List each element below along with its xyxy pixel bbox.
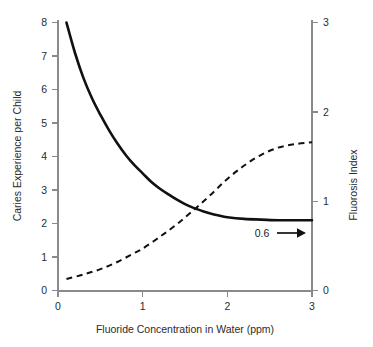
x-axis-tick-labels: 0 1 2 3: [55, 300, 315, 312]
y-right-tick-label: 2: [323, 106, 329, 118]
y-right-tick-label: 3: [323, 16, 329, 28]
y-axis-right-title: Fluorosis Index: [347, 149, 359, 221]
x-tick-label: 0: [55, 300, 61, 312]
y-left-tick-label: 3: [41, 184, 47, 196]
y-left-tick-label: 1: [41, 251, 47, 263]
y-axis-right-tick-labels: 0 1 2 3: [323, 16, 329, 296]
x-axis-title: Fluoride Concentration in Water (ppm): [96, 323, 274, 335]
y-left-tick-label: 4: [41, 150, 47, 162]
chart-container: 0 1 2 3 4 5 6 7 8 0 1 2 3: [0, 0, 373, 347]
y-axis-right-ticks: [312, 23, 318, 291]
y-left-tick-label: 5: [41, 117, 47, 129]
x-tick-label: 3: [309, 300, 315, 312]
y-axis-left-ticks: [52, 23, 58, 291]
y-right-tick-label: 1: [323, 195, 329, 207]
x-axis-ticks: [58, 291, 312, 297]
y-left-tick-label: 2: [41, 217, 47, 229]
y-axis-left-title: Caries Experience per Child: [11, 90, 23, 221]
chart-plot-area: 0 1 2 3 4 5 6 7 8 0 1 2 3: [0, 0, 373, 347]
series-caries-experience-line: [66, 23, 312, 221]
x-tick-label: 2: [224, 300, 230, 312]
annotation-arrow-head-icon: [297, 228, 306, 238]
y-left-tick-label: 0: [41, 284, 47, 296]
x-tick-label: 1: [140, 300, 146, 312]
y-left-tick-label: 7: [41, 50, 47, 62]
annotation-value-label: 0.6: [255, 227, 270, 239]
series-fluorosis-index-line: [66, 142, 312, 279]
y-right-tick-label: 0: [323, 284, 329, 296]
y-axis-left-tick-labels: 0 1 2 3 4 5 6 7 8: [41, 16, 47, 296]
y-left-tick-label: 6: [41, 83, 47, 95]
annotation-group: 0.6: [255, 227, 306, 239]
y-left-tick-label: 8: [41, 16, 47, 28]
